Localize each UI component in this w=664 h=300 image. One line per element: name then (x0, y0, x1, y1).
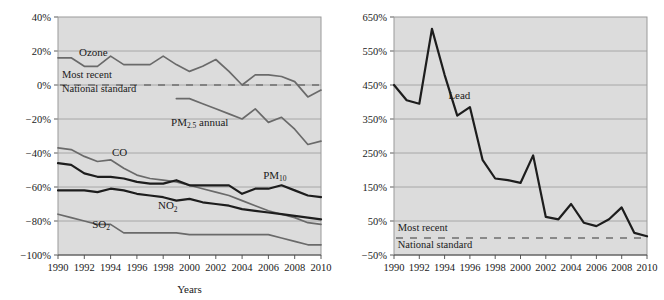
y-tick-label: 250% (363, 148, 388, 159)
y-tick-label: 550% (363, 46, 388, 57)
x-tick-label: 1990 (48, 262, 69, 273)
x-tick-label: 2004 (561, 262, 583, 273)
y-tick-label: −20% (26, 114, 51, 125)
x-tick-label: 2008 (611, 262, 632, 273)
x-axis-title: Years (177, 283, 202, 295)
annotation-most-recent: Most recent (62, 69, 112, 80)
y-tick-label: 20% (32, 46, 52, 57)
y-tick-label: 40% (32, 12, 52, 23)
x-tick-label: 1996 (126, 262, 147, 273)
x-tick-label: 1992 (409, 262, 430, 273)
annotation-national-standard: National standard (62, 83, 137, 94)
x-tick-label: 1996 (459, 262, 480, 273)
figure-root: 40%20%0%−20%−40%−60%−80%−100%19901992199… (0, 0, 664, 300)
x-tick-label: 2006 (586, 262, 607, 273)
x-tick-label: 1990 (384, 262, 405, 273)
x-tick-label: 2010 (311, 262, 332, 273)
y-tick-label: −50% (362, 250, 387, 261)
chart-left-svg: 40%20%0%−20%−40%−60%−80%−100%19901992199… (0, 0, 340, 300)
y-tick-label: 350% (363, 114, 388, 125)
annotation-national-standard: National standard (398, 239, 473, 250)
x-tick-label: 1994 (100, 262, 122, 273)
x-tick-label: 1998 (485, 262, 506, 273)
y-tick-label: 450% (363, 80, 388, 91)
x-tick-label: 1998 (153, 262, 174, 273)
y-tick-label: 150% (363, 182, 388, 193)
chart-panel-left: 40%20%0%−20%−40%−60%−80%−100%19901992199… (0, 0, 340, 300)
x-tick-label: 2006 (258, 262, 279, 273)
y-tick-label: 650% (363, 12, 388, 23)
x-tick-label: 2010 (637, 262, 658, 273)
y-tick-label: −60% (26, 182, 51, 193)
chart-panel-right: 650%550%450%350%250%150%50%−50%199019921… (340, 0, 664, 300)
x-tick-label: 2000 (510, 262, 531, 273)
x-tick-label: 2008 (284, 262, 305, 273)
y-tick-label: −40% (26, 148, 51, 159)
x-tick-label: 2000 (179, 262, 200, 273)
y-tick-label: −100% (21, 250, 52, 261)
chart-right-svg: 650%550%450%350%250%150%50%−50%199019921… (340, 0, 664, 300)
series-label-co: CO (112, 146, 127, 158)
x-tick-label: 2002 (535, 262, 556, 273)
x-tick-label: 2002 (205, 262, 226, 273)
series-label-ozone: Ozone (79, 46, 108, 58)
x-tick-label: 1994 (434, 262, 456, 273)
y-tick-label: 0% (37, 80, 51, 91)
annotation-most-recent: Most recent (398, 222, 448, 233)
series-label-lead: Lead (448, 89, 470, 101)
y-tick-label: −80% (26, 216, 51, 227)
x-tick-label: 2004 (232, 262, 254, 273)
x-tick-label: 1992 (74, 262, 95, 273)
y-tick-label: 50% (368, 216, 388, 227)
